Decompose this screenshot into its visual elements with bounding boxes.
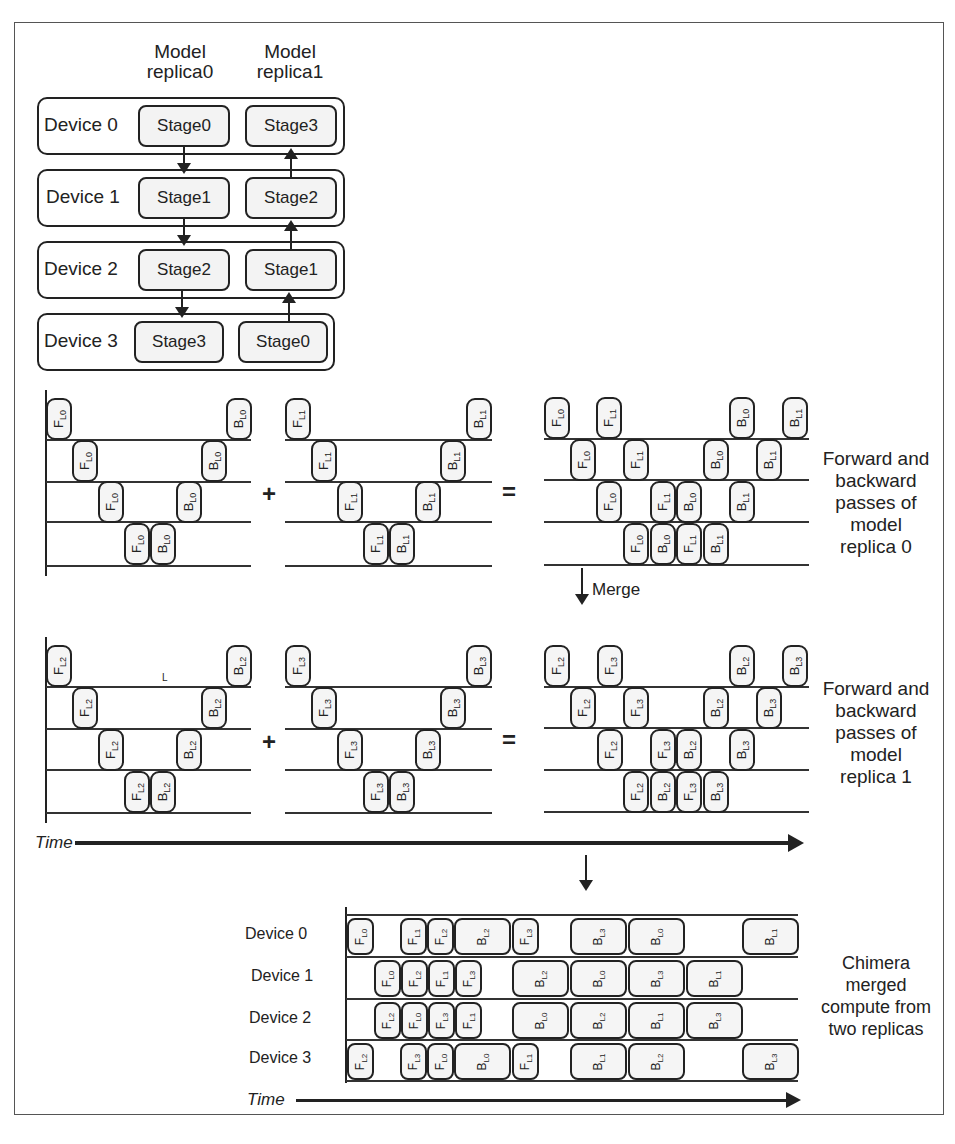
backward-block: BL1 <box>440 440 466 482</box>
block-label: BL2 <box>655 783 672 802</box>
mb-id: L3 <box>349 741 359 751</box>
stage-box: Stage1 <box>138 177 230 219</box>
forward-block: FL0 <box>374 960 401 997</box>
backward-block: BL0 <box>729 397 755 439</box>
forward-block: FL3 <box>676 771 702 813</box>
arrow-down-icon <box>177 235 191 246</box>
row-line <box>346 914 798 916</box>
mb-id: L2 <box>688 741 698 751</box>
backward-block: BL2 <box>226 645 252 687</box>
backward-block: BL2 <box>150 771 176 813</box>
caption-line: model <box>820 514 932 536</box>
block-label: FL1 <box>290 410 307 428</box>
mb-id: L1 <box>323 452 333 462</box>
block-label: BL1 <box>591 1053 607 1070</box>
mb-id: L2 <box>635 783 645 793</box>
caption-line: backward <box>820 700 932 722</box>
caption-line: replica 0 <box>820 536 932 558</box>
backward-block: BL3 <box>686 1002 743 1039</box>
block-label: FL2 <box>433 928 449 944</box>
backward-block: BL2 <box>703 687 729 729</box>
mb-id: L3 <box>427 741 437 751</box>
row-line <box>46 565 251 567</box>
block-label: FL3 <box>406 1053 422 1069</box>
caption-line: Forward and <box>820 448 932 470</box>
mb-id: L0 <box>188 493 198 503</box>
backward-block: BL3 <box>466 645 492 687</box>
block-label: FL2 <box>549 657 566 675</box>
block-label: FL0 <box>601 493 618 511</box>
mb-id: L3 <box>715 783 725 793</box>
block-label: FL2 <box>380 1012 396 1028</box>
block-label: BL1 <box>734 493 751 512</box>
mb-id: L1 <box>635 451 645 461</box>
block-label: BL2 <box>206 699 223 718</box>
forward-block: FL2 <box>427 918 454 955</box>
caption-line: Chimera <box>812 952 940 974</box>
forward-block: FL0 <box>544 397 570 439</box>
block-label: BL3 <box>763 1053 779 1070</box>
block-label: BL2 <box>475 928 491 945</box>
mb-id: L1 <box>662 493 672 503</box>
mb-id: L0 <box>635 535 645 545</box>
down-arrow-line <box>585 855 587 883</box>
mb-id: L2 <box>136 783 146 793</box>
stage-box: Stage2 <box>138 249 230 291</box>
backward-block: BL0 <box>650 523 676 565</box>
block-label: FL2 <box>407 970 423 986</box>
mb-id: L0 <box>213 452 223 462</box>
backward-block: BL2 <box>176 729 202 771</box>
block-label: BL1 <box>707 970 723 987</box>
forward-block: FL1 <box>285 398 311 440</box>
arrow-line <box>288 302 290 321</box>
header-line: replica0 <box>140 62 220 82</box>
block-label: FL0 <box>380 970 396 986</box>
block-label: FL1 <box>628 451 645 469</box>
forward-block: FL2 <box>46 645 72 687</box>
mb-id: L3 <box>478 657 488 667</box>
mb-id: L1 <box>608 409 618 419</box>
mb-id: L3 <box>452 699 462 709</box>
block-label: FL0 <box>407 1012 423 1028</box>
merge-arrow-line <box>581 568 583 596</box>
backward-block: BL3 <box>415 729 441 771</box>
mb-id: L2 <box>741 657 751 667</box>
backward-block: BL1 <box>570 1043 627 1080</box>
backward-block: BL3 <box>703 771 729 813</box>
backward-block: BL3 <box>440 687 466 729</box>
mb-id: L2 <box>556 657 566 667</box>
block-label: BL1 <box>394 535 411 554</box>
mb-id: L1 <box>688 535 698 545</box>
time-axis <box>296 1099 788 1102</box>
block-label: BL1 <box>471 410 488 429</box>
block-label: FL1 <box>368 535 385 553</box>
backward-block: BL0 <box>628 918 685 955</box>
block-label: BL0 <box>155 535 172 554</box>
arrow-down-icon <box>177 163 191 174</box>
backward-block: BL0 <box>176 481 202 523</box>
block-label: BL0 <box>206 452 223 471</box>
block-label: FL0 <box>129 535 146 553</box>
mb-id: L3 <box>401 783 411 793</box>
block-label: BL0 <box>649 928 665 945</box>
row-line <box>346 1039 798 1041</box>
time-label: Time <box>35 833 73 853</box>
block-label: FL2 <box>51 657 68 675</box>
mb-id: L3 <box>375 783 385 793</box>
device-0-label: Device 0 <box>44 114 118 136</box>
stage-box: Stage3 <box>134 321 224 363</box>
block-label: FL1 <box>681 535 698 553</box>
forward-block: FL3 <box>623 687 649 729</box>
plus-sign: + <box>262 480 276 508</box>
mb-id: L1 <box>452 452 462 462</box>
caption-line: two replicas <box>812 1018 940 1040</box>
forward-block: FL0 <box>72 440 98 482</box>
block-label: BL2 <box>181 741 198 760</box>
forward-block: FL0 <box>401 1002 428 1039</box>
mb-id: L0 <box>608 493 618 503</box>
row-line <box>46 521 251 523</box>
block-label: FL0 <box>575 451 592 469</box>
backward-block: BL0 <box>703 439 729 481</box>
backward-block: BL3 <box>782 645 808 687</box>
caption-line: Forward and <box>820 678 932 700</box>
